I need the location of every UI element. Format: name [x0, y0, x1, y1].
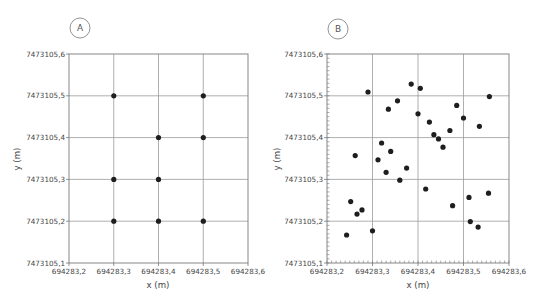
x-tick-label: 694283,4	[141, 267, 176, 276]
y-tick-label: 7473105,4	[284, 133, 323, 142]
data-point	[427, 120, 432, 125]
data-point	[111, 93, 116, 98]
data-point	[415, 111, 420, 116]
data-point	[370, 228, 375, 233]
x-tick-label: 694283,3	[355, 267, 389, 276]
data-point	[450, 203, 455, 208]
data-point	[111, 177, 116, 182]
data-point	[344, 232, 349, 237]
x-tick-label: 694283,3	[97, 267, 131, 276]
x-tick-label: 694283,4	[401, 267, 436, 276]
y-axis-ticks-a: 7473105,17473105,27473105,37473105,47473…	[26, 50, 69, 268]
data-point	[354, 212, 359, 217]
data-point	[111, 219, 116, 224]
data-point	[404, 166, 409, 171]
data-point	[409, 82, 414, 87]
data-point	[353, 153, 358, 158]
data-point	[486, 191, 491, 196]
data-point	[454, 103, 459, 108]
y-axis-ticks-b: 7473105,17473105,27473105,37473105,47473…	[284, 50, 327, 268]
data-point	[379, 140, 384, 145]
y-axis-label-b: y (m)	[272, 148, 282, 171]
data-point	[423, 186, 428, 191]
data-point	[436, 136, 441, 141]
data-point	[466, 195, 471, 200]
data-point	[477, 124, 482, 129]
data-point	[359, 207, 364, 212]
x-tick-label: 694283,5	[186, 267, 220, 276]
x-axis-ticks-b: 694283,2694283,3694283,4694283,5694283,6	[310, 263, 527, 276]
data-point	[156, 177, 161, 182]
y-tick-label: 7473105,5	[26, 91, 65, 100]
data-point	[476, 225, 481, 230]
x-tick-label: 694283,6	[492, 267, 527, 276]
data-point	[348, 199, 353, 204]
data-point	[375, 157, 380, 162]
data-point	[156, 135, 161, 140]
data-point	[201, 93, 206, 98]
data-point	[468, 219, 473, 224]
data-point	[395, 98, 400, 103]
x-tick-label: 694283,2	[52, 267, 86, 276]
data-point	[384, 170, 389, 175]
data-point	[201, 135, 206, 140]
gridlines-b	[327, 54, 509, 263]
chart-panel-b: B 7473105,17473105,27473105,37473105,474…	[272, 19, 527, 290]
x-axis-label-b: x (m)	[407, 280, 430, 290]
y-tick-label: 7473105,4	[26, 133, 65, 142]
y-tick-label: 7473105,5	[284, 91, 323, 100]
data-point	[386, 107, 391, 112]
data-point	[201, 219, 206, 224]
data-point	[418, 86, 423, 91]
data-point	[397, 178, 402, 183]
y-tick-label: 7473105,3	[26, 175, 65, 184]
y-tick-label: 7473105,6	[284, 50, 323, 59]
panel-label-b-badge: B	[328, 19, 348, 39]
data-point	[431, 132, 436, 137]
figure: A 7473105,17473105,27473105,37473105,474…	[0, 0, 540, 306]
x-tick-label: 694283,6	[231, 267, 266, 276]
y-tick-label: 7473105,2	[284, 217, 323, 226]
x-axis-ticks-a: 694283,2694283,3694283,4694283,5694283,6	[52, 263, 266, 276]
x-tick-label: 694283,2	[310, 267, 344, 276]
y-tick-label: 7473105,2	[26, 217, 65, 226]
chart-panel-a: A 7473105,17473105,27473105,37473105,474…	[12, 18, 266, 290]
data-point	[440, 145, 445, 150]
data-point	[365, 89, 370, 94]
data-point	[388, 149, 393, 154]
panel-label-b: B	[335, 24, 341, 34]
panel-label-a: A	[77, 23, 84, 33]
y-tick-label: 7473105,6	[26, 50, 65, 59]
data-point	[487, 94, 492, 99]
data-point	[447, 128, 452, 133]
data-point	[156, 219, 161, 224]
x-tick-label: 694283,5	[446, 267, 480, 276]
gridlines-a	[69, 54, 248, 263]
x-axis-label-a: x (m)	[147, 280, 170, 290]
y-tick-label: 7473105,3	[284, 175, 323, 184]
data-point	[461, 115, 466, 120]
y-axis-label-a: y (m)	[12, 148, 22, 171]
panel-label-a-badge: A	[70, 18, 90, 38]
